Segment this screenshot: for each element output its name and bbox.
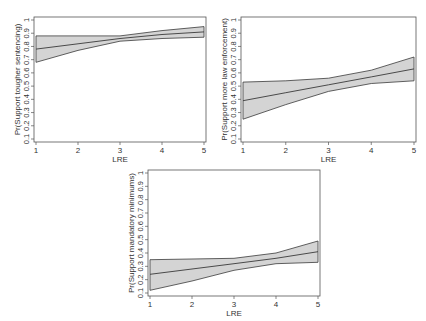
y-tick-label: 0.9	[136, 181, 145, 191]
x-tick-label: 3	[118, 146, 123, 155]
chart-figure: 12345LRE0.10.20.30.40.50.60.70.80.91Pr(S…	[0, 0, 426, 321]
y-tick-label: 0.8	[136, 194, 145, 204]
y-axis-label: Pr(Support tougher sentencing)	[13, 23, 22, 135]
x-tick-label: 4	[160, 146, 165, 155]
x-axis-label: LRE	[226, 309, 242, 318]
panel-more-law-enforcement: 12345LRE0.10.20.30.40.50.60.70.80.91Pr(S…	[220, 17, 417, 164]
y-tick-label: 0.7	[22, 54, 31, 64]
y-tick-label: 1	[229, 18, 238, 22]
y-tick-label: 0.3	[136, 261, 145, 271]
y-tick-label: 0.9	[229, 28, 238, 38]
y-tick-label: 0.2	[229, 121, 238, 131]
x-axis-label: LRE	[321, 155, 337, 164]
y-tick-label: 0.2	[22, 121, 31, 131]
y-tick-label: 0.2	[136, 274, 145, 284]
y-tick-label: 0.1	[22, 134, 31, 144]
y-tick-label: 0.3	[22, 107, 31, 117]
y-axis-label: Pr(Support mandatory minimums)	[127, 173, 136, 293]
x-tick-label: 1	[34, 146, 39, 155]
y-tick-label: 0.8	[229, 41, 238, 51]
y-tick-label: 0.3	[229, 107, 238, 117]
x-tick-label: 5	[412, 146, 417, 155]
x-tick-label: 4	[274, 300, 279, 309]
x-tick-label: 5	[316, 300, 321, 309]
y-tick-label: 1	[22, 18, 31, 22]
x-axis-label: LRE	[112, 155, 128, 164]
y-tick-label: 0.5	[22, 81, 31, 91]
y-tick-label: 0.7	[229, 54, 238, 64]
y-tick-label: 0.6	[229, 68, 238, 78]
y-tick-label: 0.9	[22, 28, 31, 38]
x-tick-label: 5	[202, 146, 207, 155]
x-tick-label: 3	[326, 146, 331, 155]
x-tick-label: 2	[190, 300, 195, 309]
x-tick-label: 2	[76, 146, 81, 155]
x-tick-label: 2	[284, 146, 289, 155]
y-tick-label: 0.7	[136, 208, 145, 218]
y-tick-label: 0.4	[136, 248, 145, 258]
y-tick-label: 0.6	[136, 221, 145, 231]
y-tick-label: 0.8	[22, 41, 31, 51]
panel-tougher-sentencing: 12345LRE0.10.20.30.40.50.60.70.80.91Pr(S…	[13, 17, 207, 164]
x-tick-label: 1	[241, 146, 246, 155]
y-tick-label: 0.4	[229, 94, 238, 104]
y-tick-label: 0.1	[136, 288, 145, 298]
x-tick-label: 4	[369, 146, 374, 155]
x-tick-label: 3	[232, 300, 237, 309]
y-tick-label: 1	[136, 171, 145, 175]
x-tick-label: 1	[148, 300, 153, 309]
y-tick-label: 0.4	[22, 94, 31, 104]
y-tick-label: 0.6	[22, 68, 31, 78]
y-tick-label: 0.5	[229, 81, 238, 91]
y-tick-label: 0.1	[229, 134, 238, 144]
y-axis-label: Pr(Support more law enforcement)	[220, 18, 229, 141]
panel-mandatory-minimums: 12345LRE0.10.20.30.40.50.60.70.80.91Pr(S…	[127, 170, 321, 318]
y-tick-label: 0.5	[136, 234, 145, 244]
